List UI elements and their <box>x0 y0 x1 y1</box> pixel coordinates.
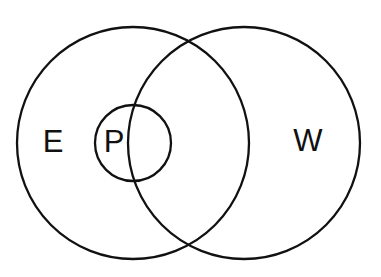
venn-svg: E W P <box>0 0 381 277</box>
circle-w <box>128 27 360 259</box>
label-p: P <box>104 124 125 159</box>
venn-diagram: E W P <box>0 0 381 277</box>
label-w: W <box>293 123 323 158</box>
label-e: E <box>43 124 64 159</box>
